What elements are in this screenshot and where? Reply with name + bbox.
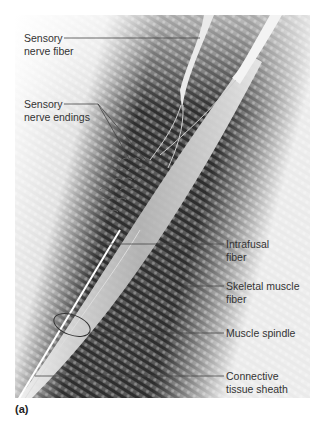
label-sensory-nerve-endings: Sensory nerve endings (24, 98, 90, 123)
panel-label: (a) (15, 403, 28, 415)
label-connective-tissue-sheath: Connective tissue sheath (226, 370, 288, 395)
label-skeletal-muscle-fiber: Skeletal muscle fiber (226, 280, 300, 305)
label-intrafusal-fiber: Intrafusal fiber (226, 238, 269, 263)
muscle-spindle-illustration (0, 0, 321, 429)
label-sensory-nerve-fiber: Sensory nerve fiber (24, 32, 74, 57)
label-muscle-spindle: Muscle spindle (226, 327, 295, 340)
